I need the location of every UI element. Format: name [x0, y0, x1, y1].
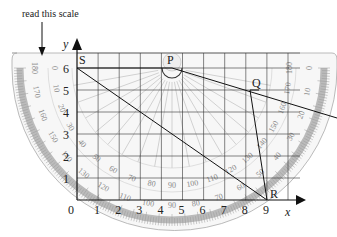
protractor-scale-label: 10 — [302, 87, 312, 96]
x-tick-label: 2 — [115, 203, 121, 217]
y-tick-label: 3 — [63, 128, 69, 142]
x-tick-label: 9 — [263, 203, 269, 217]
point-label-r: R — [270, 187, 278, 201]
y-axis-label: y — [62, 37, 69, 51]
x-tick-label: 1 — [94, 203, 100, 217]
point-label-p: P — [167, 53, 174, 67]
protractor-scale-label: 90 — [168, 201, 176, 210]
protractor-scale-label: 180 — [30, 62, 39, 74]
protractor-scale-label: 0 — [305, 66, 314, 70]
y-tick-label: 5 — [63, 84, 69, 98]
y-tick-label: 2 — [63, 150, 69, 164]
x-tick-label: 7 — [221, 203, 227, 217]
x-axis-arrow-icon — [296, 195, 306, 205]
protractor-scale-label: 80 — [147, 178, 156, 188]
x-axis-label: x — [284, 205, 291, 219]
protractor-scale-label: 10 — [51, 84, 61, 93]
protractor-diagram: 0102030405060708090100110120130140150160… — [0, 0, 337, 237]
y-tick-label: 4 — [63, 106, 69, 120]
x-tick-label: 6 — [200, 203, 206, 217]
x-tick-label: 3 — [136, 203, 142, 217]
annotation-text: read this scale — [22, 8, 79, 19]
y-tick-label: 6 — [63, 62, 69, 76]
protractor-scale-label: 0 — [50, 66, 59, 70]
x-tick-label: 4 — [157, 203, 163, 217]
x-tick-label: 5 — [179, 203, 185, 217]
point-label-q: Q — [252, 76, 261, 90]
x-tick-label: 0 — [68, 203, 74, 217]
protractor-scale-label: 90 — [168, 181, 176, 190]
x-tick-label: 8 — [242, 203, 248, 217]
y-axis-arrow-icon — [72, 38, 82, 50]
point-label-s: S — [79, 53, 86, 67]
y-tick-label: 1 — [63, 172, 69, 186]
